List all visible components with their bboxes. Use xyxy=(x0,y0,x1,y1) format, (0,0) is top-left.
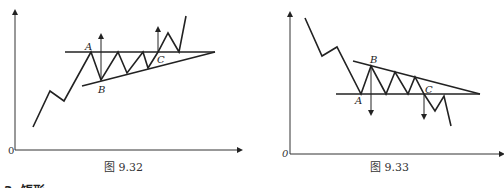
price-line xyxy=(305,18,451,126)
figure-9-32: 0 A B C xyxy=(8,12,240,156)
resistance-line xyxy=(353,61,480,94)
label-a: A xyxy=(354,95,362,106)
section-heading-partial: 3. 矩形 xyxy=(4,181,45,188)
label-a: A xyxy=(84,41,92,52)
figure-caption-9-32: 图 9.32 xyxy=(104,158,143,174)
figure-9-33: 0 A B C xyxy=(282,14,502,159)
diagram-canvas: 0 A B C 0 A B C xyxy=(0,0,504,188)
label-c: C xyxy=(425,84,433,95)
origin-label: 0 xyxy=(8,145,14,156)
figure-caption-9-33: 图 9.33 xyxy=(370,158,409,174)
price-line xyxy=(33,16,186,127)
origin-label: 0 xyxy=(282,148,289,159)
label-b: B xyxy=(369,54,377,65)
label-c: C xyxy=(157,54,165,65)
label-b: B xyxy=(97,84,105,95)
support-line xyxy=(82,52,215,86)
